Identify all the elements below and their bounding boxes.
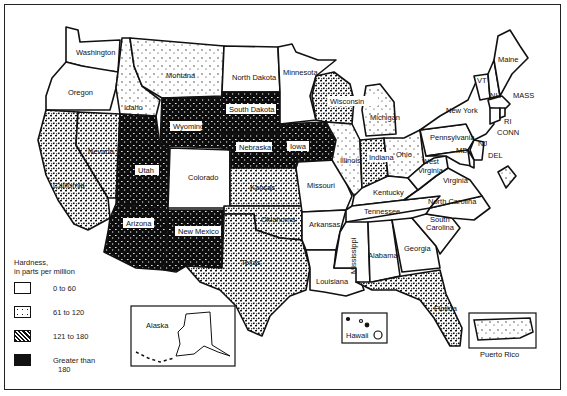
label-north-dakota: North Dakota — [232, 73, 277, 82]
label-virginia: Virginia — [443, 176, 469, 185]
label-indiana: Indiana — [369, 153, 394, 162]
inset-east-shore — [498, 166, 516, 188]
hawaii-island — [374, 331, 382, 339]
label-maryland: MD — [456, 146, 468, 155]
label-connecticut: CONN — [497, 128, 519, 137]
label-pennsylvania: Pennsylvania — [430, 133, 475, 142]
label-west-virginia-1: West — [422, 157, 440, 166]
label-iowa: Iowa — [290, 142, 307, 151]
label-west-virginia-2: Virginia — [418, 166, 444, 175]
legend-item-61-120: 61 to 120 — [14, 306, 134, 330]
label-washington: Washington — [76, 48, 115, 57]
legend: Hardness, in parts per million 0 to 60 6… — [14, 258, 134, 378]
state-connecticut — [490, 108, 500, 124]
label-idaho: Idaho — [124, 103, 143, 112]
label-california: California — [53, 181, 86, 190]
label-michigan: Michigan — [370, 113, 400, 122]
label-vermont: VT — [477, 76, 487, 85]
hawaii-island-small — [365, 323, 369, 327]
legend-item-greater-180: Greater than180 — [14, 354, 134, 378]
label-arizona: Arizona — [126, 219, 152, 228]
label-south-dakota: South Dakota — [229, 105, 275, 114]
label-new-hampshire: NH — [490, 91, 501, 100]
label-illinois: Illinois — [340, 156, 361, 165]
state-michigan — [362, 84, 396, 136]
legend-item-121-180: 121 to 180 — [14, 330, 134, 354]
label-alabama: Alabama — [368, 251, 398, 260]
label-hawaii: Hawaii — [346, 331, 369, 340]
state-north-dakota — [222, 46, 280, 92]
hawaii-island-small — [360, 320, 363, 323]
label-tennessee: Tennessee — [364, 207, 400, 216]
label-delaware: DEL — [488, 151, 503, 160]
legend-swatch-sparse-dots — [14, 306, 31, 318]
label-minnesota: Minnesota — [283, 68, 318, 77]
label-utah: Utah — [138, 166, 154, 175]
label-new-mexico: New Mexico — [178, 227, 219, 236]
legend-item-0-60: 0 to 60 — [14, 282, 134, 306]
label-new-jersey: NJ — [478, 139, 487, 148]
state-new-mexico — [164, 210, 224, 272]
label-missouri: Missouri — [307, 181, 335, 190]
label-massachusetts: MASS — [513, 91, 534, 100]
legend-swatch-dense-dots — [14, 330, 31, 342]
label-georgia: Georgia — [404, 244, 432, 253]
label-new-york: New York — [446, 106, 478, 115]
label-florida: Florida — [434, 304, 458, 313]
label-north-carolina: North Carolina — [428, 197, 477, 206]
label-texas: Texas — [241, 258, 261, 267]
label-oregon: Oregon — [68, 88, 93, 97]
hawaii-island-small — [347, 318, 350, 321]
label-kentucky: Kentucky — [373, 188, 404, 197]
label-puerto-rico: Puerto Rico — [480, 350, 519, 359]
label-mississippi: Mississippi — [349, 237, 358, 274]
legend-swatch-white — [14, 282, 31, 294]
label-wisconsin: Wisconsin — [330, 97, 364, 106]
legend-swatch-black — [14, 354, 31, 366]
legend-title: Hardness, in parts per million — [14, 258, 134, 276]
state-puerto-rico — [474, 318, 533, 340]
label-arkansas: Arkansas — [309, 220, 341, 229]
label-alaska: Alaska — [146, 321, 169, 330]
label-colorado: Colorado — [188, 173, 218, 182]
label-maine: Maine — [498, 55, 518, 64]
label-kansas: Kansas — [250, 183, 275, 192]
label-nevada: Nevada — [88, 147, 115, 156]
label-montana: Montana — [166, 71, 196, 80]
label-south-carolina-2: Carolina — [426, 223, 455, 232]
label-rhode-island: RI — [504, 117, 512, 126]
label-wyoming: Wyoming — [173, 122, 204, 131]
label-louisiana: Louisiana — [316, 277, 349, 286]
label-oklahoma: Oklahoma — [261, 215, 296, 224]
label-nebraska: Nebraska — [239, 143, 272, 152]
label-ohio: Ohio — [396, 150, 412, 159]
